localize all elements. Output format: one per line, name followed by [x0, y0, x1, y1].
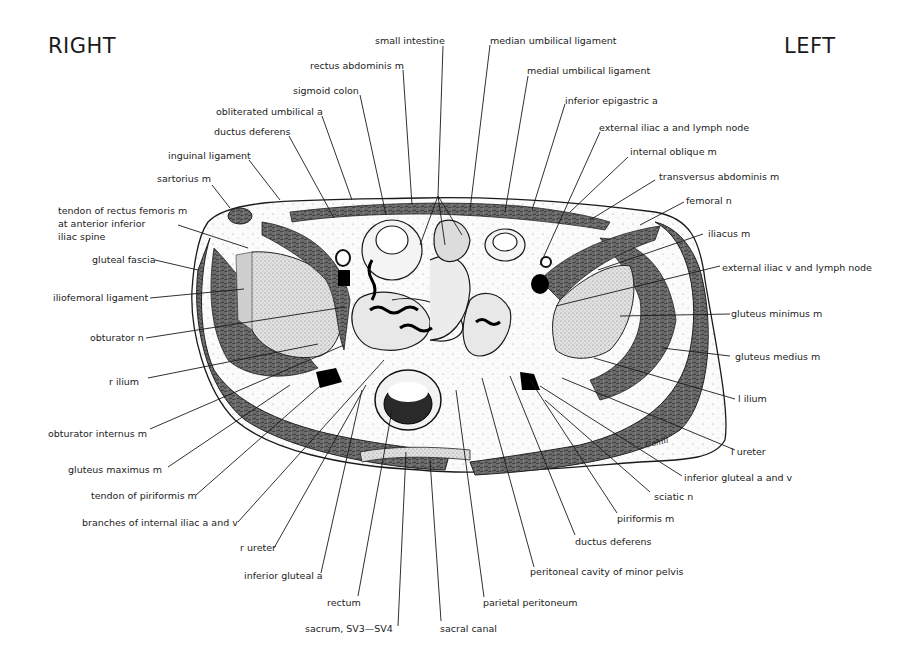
label-gluteus-minimus-m: gluteus minimus m	[731, 308, 822, 320]
label-l-ureter: l ureter	[731, 446, 766, 458]
label-rectus-abdominis-m: rectus abdominis m	[310, 60, 404, 72]
label-obturator-n: obturator n	[90, 332, 144, 344]
label-sacral-canal: sacral canal	[440, 623, 497, 635]
label-r-ilium: r ilium	[109, 376, 139, 388]
label-piriformis-m: piriformis m	[617, 513, 674, 525]
label-sacrum: sacrum, SV3—SV4	[305, 623, 393, 635]
label-internal-oblique-m: internal oblique m	[630, 146, 717, 158]
right-external-iliac-a	[336, 250, 350, 266]
label-inferior-epigastric-a: inferior epigastric a	[565, 95, 658, 107]
sartorius-shape	[228, 208, 252, 224]
label-femoral-n: femoral n	[686, 195, 732, 207]
label-gluteus-medius-m: gluteus medius m	[735, 351, 820, 363]
label-tendon-rectus-femoris: tendon of rectus femoris m at anterior i…	[58, 204, 187, 243]
label-gluteus-maximus-m: gluteus maximus m	[68, 464, 162, 476]
label-external-iliac-v-lymph: external iliac v and lymph node	[722, 262, 872, 274]
label-sigmoid-colon: sigmoid colon	[293, 85, 359, 97]
label-obturator-internus-m: obturator internus m	[48, 428, 147, 440]
label-iliofemoral-ligament: iliofemoral ligament	[53, 292, 148, 304]
label-small-intestine: small intestine	[375, 35, 445, 47]
label-rectum: rectum	[327, 597, 361, 609]
iliofemoral-ligament-shape	[236, 252, 252, 330]
label-tendon-of-piriformis-m: tendon of piriformis m	[91, 490, 197, 502]
label-peritoneal-cavity-minor-pelvis: peritoneal cavity of minor pelvis	[530, 566, 684, 578]
label-obliterated-umbilical-a: obliterated umbilical a	[216, 106, 323, 118]
label-iliacus-m: iliacus m	[708, 228, 750, 240]
label-sciatic-n: sciatic n	[654, 491, 693, 503]
label-sartorius-m: sartorius m	[157, 173, 211, 185]
label-parietal-peritoneum: parietal peritoneum	[483, 597, 578, 609]
label-medial-umbilical-ligament: medial umbilical ligament	[527, 65, 650, 77]
rectum-lumen	[388, 382, 428, 402]
label-inferior-gluteal-a: inferior gluteal a	[244, 570, 323, 582]
left-external-iliac-v	[531, 274, 549, 294]
label-ductus-deferens-bottom: ductus deferens	[575, 536, 652, 548]
label-gluteal-fascia: gluteal fascia	[92, 254, 156, 266]
label-ductus-deferens-top: ductus deferens	[214, 126, 291, 138]
label-median-umbilical-ligament: median umbilical ligament	[490, 35, 617, 47]
label-branches-internal-iliac: branches of internal iliac a and v	[82, 517, 238, 529]
right-external-iliac-v	[338, 270, 350, 286]
label-inguinal-ligament: inguinal ligament	[168, 150, 251, 162]
label-external-iliac-a-lymph: external iliac a and lymph node	[599, 122, 749, 134]
label-transversus-abdominis-m: transversus abdominis m	[659, 171, 779, 183]
label-r-ureter: r ureter	[240, 542, 276, 554]
label-inferior-gluteal-a-and-v: inferior gluteal a and v	[684, 472, 792, 484]
label-l-ilium: l ilium	[738, 393, 767, 405]
